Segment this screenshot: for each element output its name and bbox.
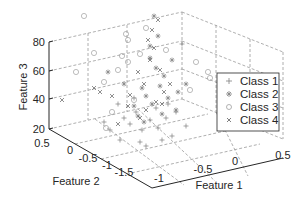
asterisk-marker-icon	[174, 108, 179, 113]
x-marker-icon	[162, 90, 166, 94]
y-tick-label: 0.5	[34, 137, 49, 149]
asterisk-marker-icon	[148, 44, 153, 49]
x-tick-label: -1	[154, 172, 164, 184]
asterisk-marker-icon	[152, 14, 157, 19]
circle-marker-icon	[137, 51, 142, 56]
x-marker-icon	[138, 116, 142, 120]
asterisk-marker-icon	[122, 82, 127, 87]
x-marker-icon	[60, 98, 64, 102]
circle-marker-icon	[109, 109, 114, 114]
circle-marker-icon	[123, 31, 128, 36]
plus-marker-icon	[128, 122, 133, 127]
asterisk-marker-icon	[162, 74, 167, 79]
x-marker-icon	[136, 70, 140, 74]
plus-marker-icon	[138, 140, 143, 145]
x-marker-icon	[160, 102, 164, 106]
x-marker-icon	[168, 82, 172, 86]
asterisk-marker-icon	[140, 86, 145, 91]
circle-marker-icon	[119, 53, 124, 58]
plus-marker-icon	[154, 106, 159, 111]
x-tick-label: 0	[232, 155, 238, 167]
data-markers	[60, 13, 213, 148]
x-marker-icon	[142, 82, 146, 86]
circle-marker-icon	[73, 69, 78, 74]
plus-marker-icon	[170, 134, 175, 139]
plus-marker-icon	[118, 138, 123, 143]
circle-marker-icon	[125, 59, 130, 64]
asterisk-marker-icon	[106, 70, 111, 75]
legend-label: Class 4	[240, 114, 279, 126]
x-marker-icon	[146, 38, 150, 42]
y-tick-labels: 0.5 0 -0.5 -1 -1.5	[34, 137, 133, 178]
x-marker-icon	[154, 100, 158, 104]
legend-label: Class 1	[240, 75, 278, 87]
z-tick-labels: 80 60 40 20	[33, 36, 45, 135]
x-marker-icon	[128, 93, 132, 97]
asterisk-marker-icon	[166, 96, 171, 101]
circle-marker-icon	[143, 25, 148, 30]
z-tick-label: 40	[33, 93, 45, 105]
asterisk-marker-icon	[176, 90, 181, 95]
x-marker-icon	[158, 68, 162, 72]
circle-marker-icon	[91, 50, 96, 55]
circle-marker-icon	[103, 125, 108, 130]
x-marker-icon	[156, 18, 160, 22]
asterisk-marker-icon	[184, 82, 189, 87]
circle-marker-icon	[205, 69, 210, 74]
plus-marker-icon	[160, 138, 165, 143]
x-tick-label: -0.5	[194, 163, 213, 175]
asterisk-marker-icon	[170, 58, 175, 63]
plus-marker-icon	[164, 116, 169, 121]
x-marker-icon	[144, 108, 148, 112]
plus-marker-icon	[144, 144, 149, 149]
plus-marker-icon	[180, 42, 185, 47]
circle-marker-icon	[193, 59, 198, 64]
scatter-3d-plot: 80 60 40 20 0.5 0 -0.5 -1 -1.5 -1 -0.5 0…	[0, 0, 299, 202]
z-tick-label: 60	[33, 65, 45, 77]
asterisk-marker-icon	[150, 102, 155, 107]
plus-marker-icon	[148, 118, 153, 123]
legend-label: Class 2	[240, 88, 278, 100]
asterisk-marker-icon	[144, 94, 149, 99]
circle-marker-icon	[115, 67, 120, 72]
x-tick-label: 0.5	[275, 149, 290, 161]
circle-marker-icon	[187, 87, 192, 92]
asterisk-marker-icon	[142, 120, 147, 125]
plus-marker-icon	[116, 102, 121, 107]
z-tick-label: 20	[33, 123, 45, 135]
asterisk-marker-icon	[160, 112, 165, 117]
z-tick-label: 80	[33, 36, 45, 48]
y-tick-label: 0	[67, 144, 73, 156]
circle-marker-icon	[163, 47, 168, 52]
asterisk-marker-icon	[156, 34, 161, 39]
y-tick-label: -1	[102, 159, 112, 171]
x-marker-icon	[92, 86, 96, 90]
x-marker-icon	[110, 94, 114, 98]
x-marker-icon	[98, 90, 102, 94]
circle-marker-icon	[125, 37, 130, 42]
plus-marker-icon	[184, 124, 189, 129]
plus-marker-icon	[102, 120, 107, 125]
legend-label: Class 3	[240, 101, 278, 113]
legend: Class 1 Class 2 Class 3 Class 4	[217, 73, 279, 131]
x-axis-label: Feature 1	[195, 179, 242, 191]
y-tick-label: -1.5	[115, 166, 134, 178]
z-axis-label: Feature 3	[17, 63, 29, 110]
plus-marker-icon	[122, 116, 127, 121]
circle-marker-icon	[81, 13, 86, 18]
y-axis-label: Feature 2	[52, 175, 99, 187]
asterisk-marker-icon	[132, 104, 137, 109]
x-marker-icon	[150, 28, 154, 32]
y-tick-label: -0.5	[79, 152, 98, 164]
x-marker-icon	[116, 122, 120, 126]
asterisk-marker-icon	[158, 84, 163, 89]
asterisk-marker-icon	[154, 66, 159, 71]
circle-marker-icon	[101, 79, 106, 84]
